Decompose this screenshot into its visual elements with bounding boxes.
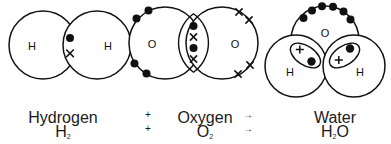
- water-oxygen-lone-dot-2: [308, 7, 316, 15]
- hydrogen-atom-label-right: H: [104, 40, 112, 52]
- hydrogen-formula-symbol: H: [55, 123, 67, 140]
- water-left-shared-dot: [307, 57, 315, 65]
- water-hydrogen-label-right: H: [356, 66, 364, 78]
- oxygen-shared-dot-lower: [190, 44, 198, 52]
- label-water-formula: H2O: [280, 124, 390, 141]
- hydrogen-molecule: H H: [9, 11, 131, 79]
- hydrogen-atom-label-left: H: [28, 40, 36, 52]
- operator-arrow-bottom: →: [218, 124, 278, 135]
- oxygen-left-lone-dot-2: [133, 15, 141, 23]
- oxygen-formula-subscript: 2: [209, 133, 213, 140]
- oxygen-molecule: O O: [129, 7, 258, 80]
- oxygen-formula-symbol: O: [197, 123, 209, 140]
- label-hydrogen-formula: H2: [8, 124, 118, 141]
- water-formula-tail: O: [337, 123, 349, 140]
- oxygen-atom-label-right: O: [231, 38, 240, 50]
- water-formula-subscript: 2: [333, 133, 337, 140]
- reaction-diagram: H H O O: [0, 0, 391, 144]
- oxygen-atom-label-left: O: [148, 38, 157, 50]
- hydrogen-atom-circle-right: [63, 11, 131, 79]
- operator-arrow-top: →: [218, 110, 278, 121]
- oxygen-left-lone-dot-4: [143, 70, 151, 78]
- oxygen-shared-dot-upper: [190, 22, 198, 30]
- water-oxygen-lone-dot-6: [347, 16, 355, 24]
- water-oxygen-lone-dot-4: [329, 3, 337, 11]
- oxygen-left-lone-dot-3: [131, 60, 139, 68]
- water-hydrogen-label-left: H: [286, 66, 294, 78]
- water-molecule: O H H: [265, 2, 385, 97]
- water-formula-symbol: H: [321, 123, 333, 140]
- water-oxygen-label: O: [321, 27, 330, 39]
- water-oxygen-lone-dot-1: [300, 14, 308, 22]
- hydrogen-shared-electron-dot: [66, 34, 74, 42]
- water-oxygen-lone-dot-5: [340, 8, 348, 16]
- water-right-shared-dot: [346, 44, 354, 52]
- oxygen-left-lone-dot-1: [145, 7, 153, 15]
- hydrogen-formula-subscript: 2: [67, 133, 71, 140]
- water-oxygen-lone-dot-3: [318, 2, 326, 10]
